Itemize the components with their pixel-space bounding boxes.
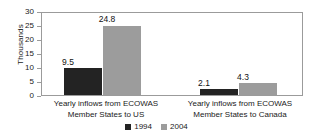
bar-label-1994-us: 9.5: [49, 57, 87, 67]
bar-1994-us: [64, 68, 102, 95]
category-label-us: Yearly inflows from ECOWAS Member States…: [42, 99, 170, 120]
category-label-canada-line1: Yearly inflows from ECOWAS: [176, 99, 304, 110]
legend-item-2004[interactable]: 2004: [161, 122, 188, 132]
category-label-canada: Yearly inflows from ECOWAS Member States…: [176, 99, 304, 120]
y-tick-label-0: 0: [30, 91, 34, 101]
legend: 1994 2004: [0, 122, 313, 132]
y-tick-label-10: 10: [25, 63, 34, 73]
bar-label-1994-canada: 2.1: [185, 78, 223, 88]
bar-label-2004-us: 24.8: [88, 14, 126, 24]
legend-item-1994[interactable]: 1994: [125, 122, 152, 132]
legend-label-1994: 1994: [134, 122, 152, 132]
category-label-canada-line2: Member States to Canada: [176, 110, 304, 121]
bar-2004-canada: [239, 83, 277, 95]
plot-area: [41, 12, 303, 96]
legend-label-2004: 2004: [170, 122, 188, 132]
y-tick-label-30: 30: [25, 7, 34, 17]
category-label-us-line2: Member States to US: [42, 110, 170, 121]
y-tick-label-20: 20: [25, 35, 34, 45]
y-axis-title: Thousands: [16, 7, 25, 83]
y-tick-label-25: 25: [25, 21, 34, 31]
bar-label-2004-canada: 4.3: [224, 72, 262, 82]
legend-swatch-1994-icon: [125, 124, 131, 130]
legend-swatch-2004-icon: [161, 124, 167, 130]
category-label-us-line1: Yearly inflows from ECOWAS: [42, 99, 170, 110]
bar-1994-canada: [200, 89, 238, 95]
bar-2004-us: [103, 26, 141, 95]
y-tick-mark-0: [37, 96, 41, 97]
y-tick-label-15: 15: [25, 49, 34, 59]
y-tick-label-5: 5: [30, 77, 34, 87]
bar-chart: Thousands 30 25 20 15 10 5 0 9.5 24.8 2.…: [0, 0, 313, 138]
